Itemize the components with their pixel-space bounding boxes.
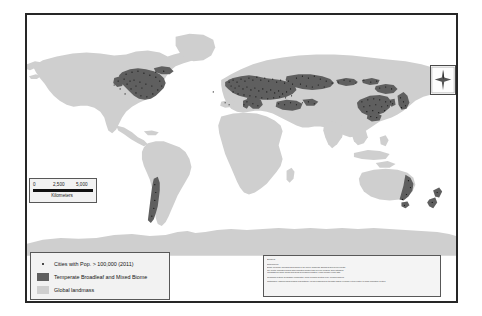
scale-bar: 0 2,500 5,000 Kilometers: [29, 178, 97, 203]
legend-key-biome-swatch: [36, 273, 50, 281]
scale-bar-graphic: [33, 189, 93, 192]
legend-item-biome: Temperate Broadleaf and Mixed Biome: [36, 270, 164, 283]
legend-item-cities: Cities with Pop. > 100,000 (2011): [36, 257, 164, 270]
scale-tick-1: 2,500: [53, 181, 65, 189]
scale-bar-unit-label: Kilometers: [33, 193, 91, 198]
map-frame: 0 2,500 5,000 Kilometers Cities with Pop…: [25, 13, 458, 303]
north-arrow-box: [430, 65, 456, 95]
legend: Cities with Pop. > 100,000 (2011) Temper…: [30, 252, 170, 300]
legend-key-landmass-swatch: [36, 286, 50, 294]
source-metadata-block: Sources Data sources: Biome polygons: Te…: [263, 255, 441, 297]
legend-item-landmass: Global landmass: [36, 283, 164, 296]
legend-key-city-point-icon: [36, 263, 50, 265]
legend-label-landmass: Global landmass: [54, 287, 94, 293]
legend-label-cities: Cities with Pop. > 100,000 (2011): [54, 261, 133, 267]
north-arrow-icon: [431, 66, 455, 94]
map-figure: 0 2,500 5,000 Kilometers Cities with Pop…: [0, 0, 482, 316]
source-line: Cartography: mapped using desktop GIS so…: [267, 280, 437, 283]
scale-tick-2: 5,000: [76, 181, 88, 189]
legend-label-biome: Temperate Broadleaf and Mixed Biome: [54, 274, 147, 280]
scale-bar-labels: 0 2,500 5,000: [33, 181, 93, 189]
scale-tick-0: 0: [33, 181, 36, 189]
